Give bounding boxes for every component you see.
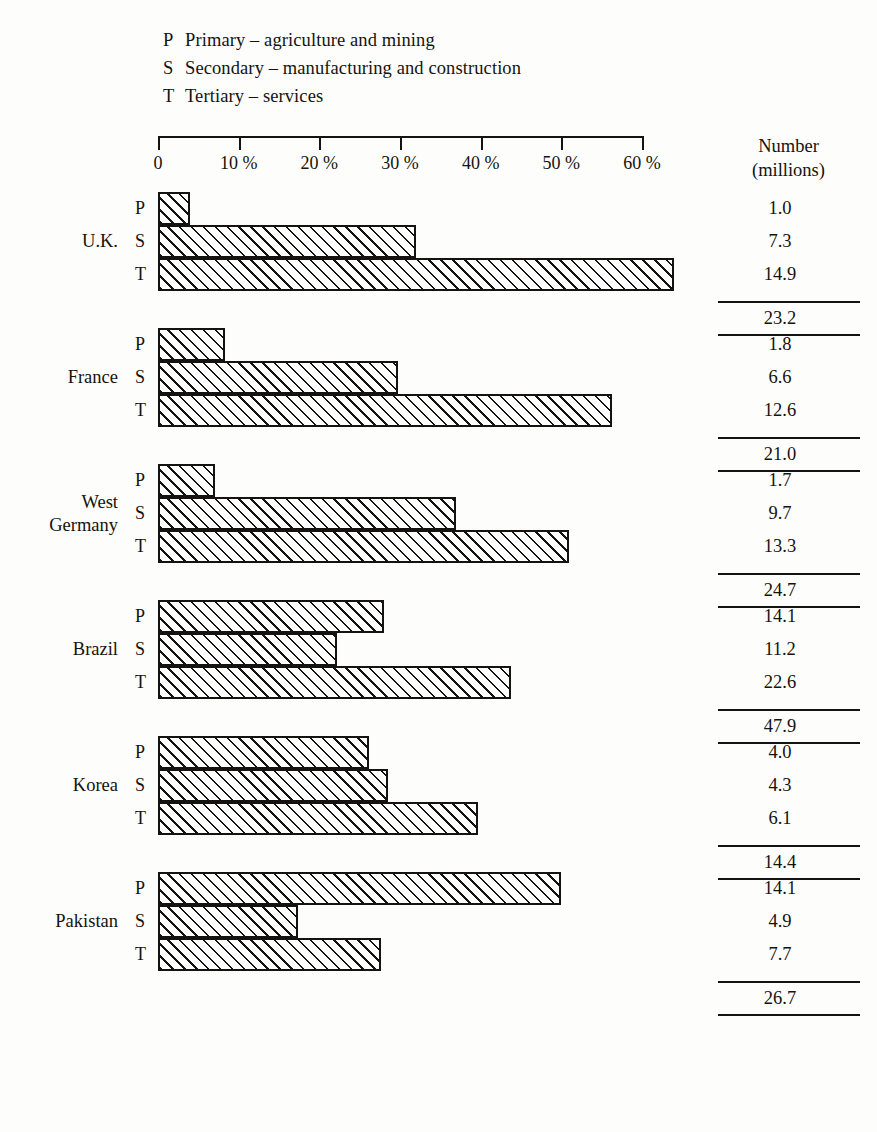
bar-west-germany-s xyxy=(158,497,456,530)
total-rule-top xyxy=(718,437,860,439)
bar-france-s xyxy=(158,361,398,394)
sector-key-p: P xyxy=(135,742,153,763)
bar-row xyxy=(158,258,642,291)
country-label-line: France xyxy=(0,366,118,389)
bar-row xyxy=(158,736,642,769)
chart-page: PPrimary – agriculture and miningSSecond… xyxy=(0,0,877,1132)
sector-key-t: T xyxy=(135,536,153,557)
bar-row xyxy=(158,872,642,905)
total-rule-top xyxy=(718,981,860,983)
bar-row xyxy=(158,938,642,971)
bar-pakistan-s xyxy=(158,905,298,938)
total-rule-top xyxy=(718,845,860,847)
number-value: 13.3 xyxy=(700,535,860,558)
number-total: 24.7 xyxy=(700,579,860,602)
country-label-line: West xyxy=(0,491,118,514)
sector-key-s: S xyxy=(135,503,153,524)
total-rule-top xyxy=(718,301,860,303)
bar-row xyxy=(158,633,642,666)
total-rule-top xyxy=(718,573,860,575)
country-label: Brazil xyxy=(0,638,118,661)
number-value: 6.1 xyxy=(700,807,860,830)
bar-row xyxy=(158,464,642,497)
sector-key-t: T xyxy=(135,808,153,829)
number-value: 1.0 xyxy=(700,197,860,220)
bar-row xyxy=(158,192,642,225)
number-value: 9.7 xyxy=(700,502,860,525)
bar-row xyxy=(158,600,642,633)
bar-u-k--s xyxy=(158,225,416,258)
number-value: 6.6 xyxy=(700,366,860,389)
number-value: 14.9 xyxy=(700,263,860,286)
bar-pakistan-p xyxy=(158,872,561,905)
bar-brazil-p xyxy=(158,600,384,633)
number-value: 4.9 xyxy=(700,910,860,933)
number-total: 21.0 xyxy=(700,443,860,466)
sector-key-s: S xyxy=(135,911,153,932)
number-value: 22.6 xyxy=(700,671,860,694)
bar-row xyxy=(158,666,642,699)
bar-u-k--p xyxy=(158,192,190,225)
bar-row xyxy=(158,361,642,394)
number-value: 1.7 xyxy=(700,469,860,492)
sector-key-t: T xyxy=(135,264,153,285)
country-label: Korea xyxy=(0,774,118,797)
bar-row xyxy=(158,394,642,427)
bar-west-germany-t xyxy=(158,530,569,563)
sector-key-p: P xyxy=(135,334,153,355)
country-label-line: Brazil xyxy=(0,638,118,661)
bar-pakistan-t xyxy=(158,938,381,971)
sector-key-t: T xyxy=(135,672,153,693)
total-rule-top xyxy=(718,709,860,711)
bar-france-p xyxy=(158,328,225,361)
bar-row xyxy=(158,769,642,802)
number-total: 26.7 xyxy=(700,987,860,1010)
country-label-line: U.K. xyxy=(0,230,118,253)
number-value: 7.7 xyxy=(700,943,860,966)
bar-korea-p xyxy=(158,736,369,769)
bar-west-germany-p xyxy=(158,464,215,497)
number-total: 23.2 xyxy=(700,307,860,330)
country-label-line: Pakistan xyxy=(0,910,118,933)
number-value: 12.6 xyxy=(700,399,860,422)
sector-key-t: T xyxy=(135,400,153,421)
number-total: 47.9 xyxy=(700,715,860,738)
bar-brazil-t xyxy=(158,666,511,699)
number-total: 14.4 xyxy=(700,851,860,874)
sector-key-s: S xyxy=(135,231,153,252)
bar-row xyxy=(158,802,642,835)
sector-key-p: P xyxy=(135,470,153,491)
country-label: WestGermany xyxy=(0,491,118,537)
bar-row xyxy=(158,328,642,361)
number-value: 14.1 xyxy=(700,605,860,628)
bar-row xyxy=(158,497,642,530)
number-value: 1.8 xyxy=(700,333,860,356)
country-label-line: Korea xyxy=(0,774,118,797)
sector-key-s: S xyxy=(135,367,153,388)
sector-key-p: P xyxy=(135,198,153,219)
sector-key-p: P xyxy=(135,606,153,627)
bar-u-k--t xyxy=(158,258,674,291)
country-label: U.K. xyxy=(0,230,118,253)
bar-korea-t xyxy=(158,802,478,835)
bar-france-t xyxy=(158,394,612,427)
country-label: France xyxy=(0,366,118,389)
number-value: 7.3 xyxy=(700,230,860,253)
country-label-line: Germany xyxy=(0,514,118,537)
bar-row xyxy=(158,530,642,563)
sector-key-t: T xyxy=(135,944,153,965)
sector-key-s: S xyxy=(135,639,153,660)
plot-area: U.K.P1.0S7.3T14.923.2FranceP1.8S6.6T12.6… xyxy=(0,0,877,1132)
number-value: 11.2 xyxy=(700,638,860,661)
bar-row xyxy=(158,225,642,258)
number-value: 4.0 xyxy=(700,741,860,764)
country-label: Pakistan xyxy=(0,910,118,933)
bar-row xyxy=(158,905,642,938)
number-value: 14.1 xyxy=(700,877,860,900)
bar-brazil-s xyxy=(158,633,337,666)
number-value: 4.3 xyxy=(700,774,860,797)
bar-korea-s xyxy=(158,769,388,802)
sector-key-p: P xyxy=(135,878,153,899)
sector-key-s: S xyxy=(135,775,153,796)
total-rule-bottom xyxy=(718,1014,860,1016)
